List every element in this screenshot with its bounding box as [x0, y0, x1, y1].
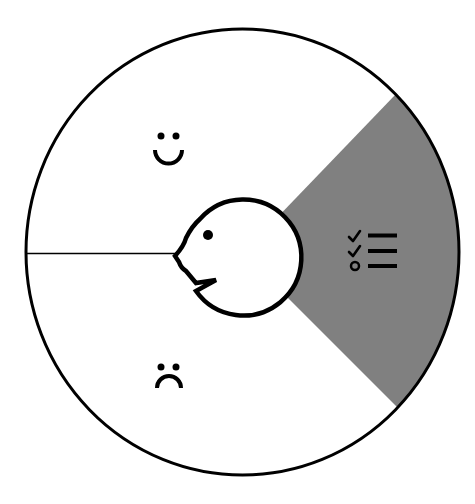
- wheel-diagram: [0, 0, 475, 504]
- smiley-face-icon[interactable]: [140, 125, 200, 175]
- eye-icon: [203, 230, 213, 240]
- sad-face-icon[interactable]: [140, 355, 200, 405]
